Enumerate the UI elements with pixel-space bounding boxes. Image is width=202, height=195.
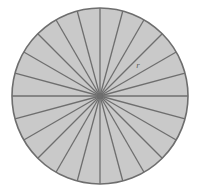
radius-label: r	[136, 60, 140, 70]
figure-stage: r	[0, 0, 202, 195]
circle-sector-diagram: r	[0, 0, 202, 195]
circle-center-point	[98, 94, 103, 99]
